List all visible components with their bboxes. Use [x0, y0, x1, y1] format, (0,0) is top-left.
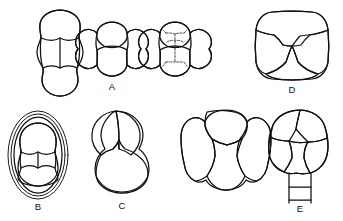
- figure-oval-four-chamber: [181, 110, 271, 190]
- figure-a: A: [76, 22, 149, 92]
- figure-c: C: [92, 111, 149, 211]
- figure-label-e: E: [297, 203, 304, 214]
- internal-canal-dashed: [163, 30, 187, 66]
- figure-e: E: [269, 110, 329, 214]
- illustration-plate: A: [0, 0, 343, 221]
- figure-b: B: [8, 111, 68, 212]
- figure-label-c: C: [118, 200, 125, 211]
- figure-d: D: [255, 11, 329, 95]
- figure-label-b: B: [35, 201, 42, 212]
- figure-label-d: D: [288, 84, 295, 95]
- figure-internal-canal: [139, 22, 212, 76]
- figure-label-a: A: [109, 81, 116, 92]
